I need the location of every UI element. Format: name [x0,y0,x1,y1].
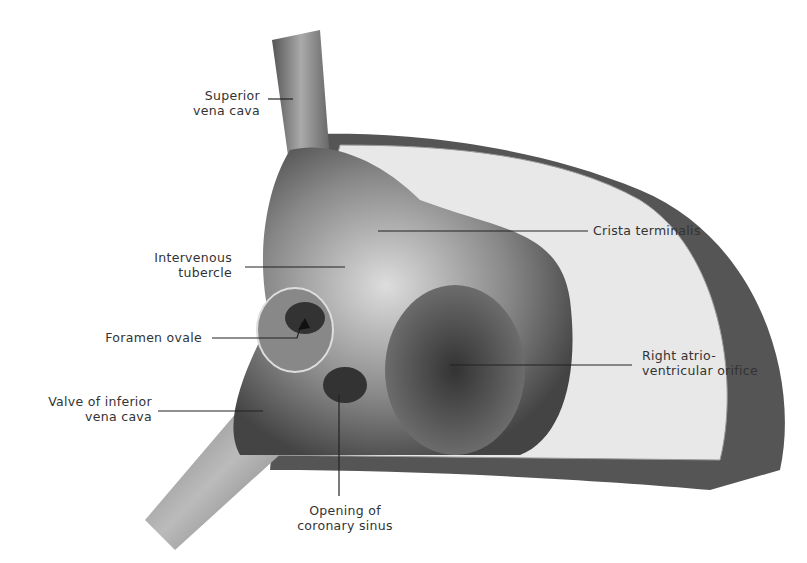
label-line: Opening of [270,503,420,518]
label-line: tubercle [120,265,232,280]
label-right-av-orifice: Right atrio- ventricular orifice [642,348,758,378]
label-line: vena cava [150,103,260,118]
label-intervenous-tubercle: Intervenous tubercle [120,250,232,280]
label-superior-vena-cava: Superior vena cava [150,88,260,118]
av-orifice-shape [385,285,525,455]
label-line: Crista terminalis [593,223,701,238]
label-line: Valve of inferior [0,394,152,409]
label-line: Foramen ovale [60,330,202,345]
label-crista-terminalis: Crista terminalis [593,223,701,238]
heart-illustration [0,0,807,563]
coronary-sinus-shape [323,367,367,403]
label-line: ventricular orifice [642,363,758,378]
label-line: Superior [150,88,260,103]
label-line: Intervenous [120,250,232,265]
right-atrium-diagram: Superior vena cava Crista terminalis Int… [0,0,807,563]
label-valve-ivc: Valve of inferior vena cava [0,394,152,424]
label-line: vena cava [0,409,152,424]
label-line: Right atrio- [642,348,758,363]
label-coronary-sinus: Opening of coronary sinus [270,503,420,533]
label-foramen-ovale: Foramen ovale [60,330,202,345]
label-line: coronary sinus [270,518,420,533]
